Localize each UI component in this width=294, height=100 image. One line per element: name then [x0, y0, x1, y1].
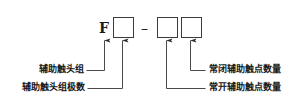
leader-line-nc-quantity	[191, 41, 206, 71]
leader-line-no-quantity	[167, 41, 206, 89]
callout-label-contact-group: 辅助触头组	[6, 64, 84, 75]
callout-label-pole-number: 辅助触头组极数	[3, 82, 85, 93]
box-no-count[interactable]	[157, 17, 178, 38]
callout-label-no-quantity: 常开辅助触点数量	[209, 82, 281, 93]
separator-dash: –	[141, 21, 148, 35]
leader-line-contact-group	[87, 41, 105, 71]
callout-label-nc-quantity: 常闭辅助触点数量	[209, 64, 281, 75]
prefix-letter-F: F	[99, 21, 109, 35]
box-pole-count[interactable]	[113, 17, 134, 38]
box-nc-count[interactable]	[181, 17, 202, 38]
designation-diagram: F – 辅助触头组 辅助触头组极数 常闭辅助触点数量 常开辅助触点数量	[0, 0, 294, 100]
